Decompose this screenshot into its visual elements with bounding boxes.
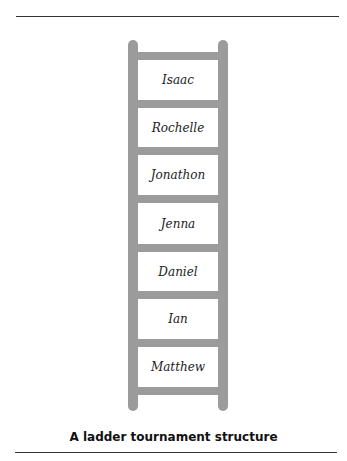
ladder-position-3: Jonathon: [138, 155, 218, 195]
ladder-position-6: Ian: [138, 299, 218, 339]
ladder-position-1: Isaac: [138, 60, 218, 100]
ladder-rung: [133, 387, 223, 395]
ladder-position-4: Jenna: [138, 203, 218, 244]
ladder-rung: [133, 52, 223, 60]
bottom-rule: [15, 452, 337, 453]
ladder-rung: [133, 100, 223, 108]
ladder-rung: [133, 147, 223, 155]
figure-caption: A ladder tournament structure: [0, 430, 347, 444]
ladder-right-rail: [218, 40, 228, 411]
ladder-rung: [133, 244, 223, 252]
ladder-rung: [133, 339, 223, 347]
ladder-left-rail: [128, 40, 138, 411]
ladder-rung: [133, 291, 223, 299]
ladder-rung: [133, 195, 223, 203]
top-rule: [16, 16, 339, 17]
ladder-position-2: Rochelle: [138, 108, 218, 147]
ladder-position-7: Matthew: [138, 347, 218, 387]
ladder-position-5: Daniel: [138, 252, 218, 291]
